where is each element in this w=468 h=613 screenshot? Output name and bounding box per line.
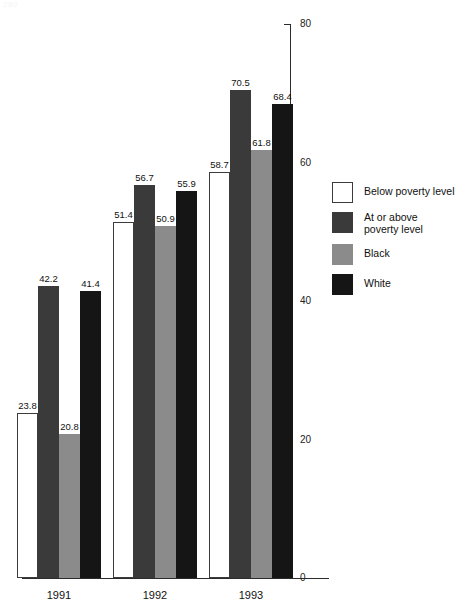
chart-legend: Below poverty levelAt or above poverty l… (332, 182, 466, 304)
legend-swatch (332, 182, 353, 203)
x-axis-label: 1993 (209, 589, 293, 601)
bar (155, 226, 176, 578)
x-axis-label: 1992 (113, 589, 197, 601)
bar (59, 434, 80, 578)
bar-value-label: 41.4 (73, 279, 108, 289)
legend-swatch (332, 212, 353, 233)
legend-item: At or above poverty level (332, 212, 466, 235)
bar (272, 104, 293, 578)
legend-label: Below poverty level (364, 182, 454, 198)
y-tick-label: 60 (300, 158, 311, 168)
bar-value-label: 55.9 (169, 179, 204, 189)
legend-label: White (364, 274, 391, 290)
legend-item: Black (332, 244, 466, 265)
bar (176, 191, 197, 578)
x-axis-label: 1991 (17, 589, 101, 601)
bar (17, 413, 38, 578)
y-tick-label: 80 (300, 19, 311, 29)
bar (134, 185, 155, 578)
y-tick-mark (284, 578, 291, 579)
legend-swatch (332, 244, 353, 265)
x-axis-line (22, 578, 329, 579)
legend-swatch (332, 274, 353, 295)
bar-value-label: 42.2 (31, 274, 66, 284)
bar (113, 222, 134, 578)
bar-value-label: 70.5 (223, 78, 258, 88)
bar-chart: 280 020406080 23.842.220.841.451.456.750… (0, 0, 468, 613)
y-tick-label: 0 (300, 573, 306, 583)
y-tick-label: 40 (300, 296, 311, 306)
bar-value-label: 68.4 (265, 92, 300, 102)
plot-area: 020406080 23.842.220.841.451.456.750.955… (0, 0, 468, 613)
y-tick-mark (284, 24, 291, 25)
legend-item: White (332, 274, 466, 295)
legend-item: Below poverty level (332, 182, 466, 203)
bar (230, 90, 251, 578)
bar (209, 172, 230, 578)
bar (80, 291, 101, 578)
legend-label: Black (364, 244, 390, 260)
bar (251, 150, 272, 578)
bar-value-label: 56.7 (127, 173, 162, 183)
legend-label: At or above poverty level (364, 212, 423, 235)
y-tick-label: 20 (300, 435, 311, 445)
